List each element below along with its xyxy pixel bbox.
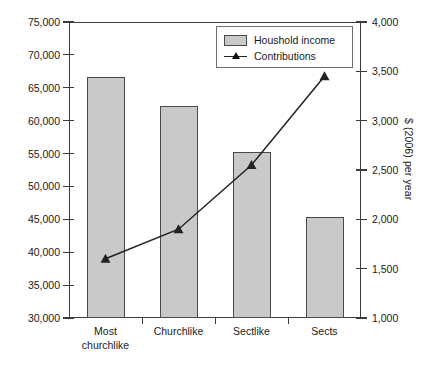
legend-label-household-income: Houshold income	[254, 34, 335, 46]
y-axis-right-tick-label: 3,000	[372, 115, 424, 127]
y-axis-left-tick-label: 30,000	[8, 312, 60, 324]
legend-item-contributions: Contributions	[224, 48, 346, 64]
y-axis-left-tick-mark	[63, 285, 74, 286]
y-axis-left-tick-mark	[63, 120, 74, 121]
line-triangle-swatch-icon	[224, 51, 247, 62]
chart-figure: $ (2006) per year $ (2006) per year 30,0…	[0, 0, 430, 370]
y-axis-right-tick-mark	[356, 71, 367, 72]
bar-household-income	[233, 152, 271, 318]
y-axis-left-tick-label: 65,000	[8, 82, 60, 94]
y-axis-left-tick-label: 60,000	[8, 115, 60, 127]
y-axis-left-tick-mark	[63, 252, 74, 253]
y-axis-left-tick-mark	[63, 21, 74, 22]
bar-household-income	[306, 217, 344, 318]
y-axis-right-tick-label: 1,000	[372, 312, 424, 324]
y-axis-right-tick-mark	[356, 219, 367, 220]
legend-item-household-income: Houshold income	[224, 32, 346, 48]
y-axis-left-tick-mark	[63, 54, 74, 55]
y-axis-left-tick-mark	[63, 87, 74, 88]
y-axis-right-ticks: 1,0001,5002,0002,5003,0003,5004,000	[372, 0, 424, 370]
y-axis-left-tick-label: 70,000	[8, 49, 60, 61]
x-axis-tick-mark	[215, 318, 216, 324]
x-axis-category-label-line: Sects	[280, 325, 370, 339]
y-axis-left-tick-mark	[63, 186, 74, 187]
y-axis-left-tick-label: 45,000	[8, 213, 60, 225]
y-axis-left-tick-label: 35,000	[8, 279, 60, 291]
y-axis-left-tick-mark	[63, 153, 74, 154]
y-axis-right-tick-mark	[356, 169, 367, 170]
bar-household-income	[87, 77, 125, 318]
y-axis-left-tick-label: 40,000	[8, 246, 60, 258]
y-axis-right-tick-label: 2,000	[372, 213, 424, 225]
bar-swatch-icon	[224, 35, 247, 46]
x-axis-category-label-line: churchlike	[61, 339, 151, 353]
y-axis-right-tick-label: 3,500	[372, 65, 424, 77]
y-axis-left-tick-mark	[63, 219, 74, 220]
x-axis-tick-mark	[288, 318, 289, 324]
y-axis-left-tick-mark	[63, 317, 74, 318]
y-axis-right-tick-label: 2,500	[372, 164, 424, 176]
bar-household-income	[160, 106, 198, 318]
x-axis-category-label: Sects	[280, 325, 370, 339]
x-axis-tick-mark	[142, 318, 143, 324]
y-axis-right-tick-mark	[356, 317, 367, 318]
y-axis-right-tick-label: 1,500	[372, 263, 424, 275]
legend-label-contributions: Contributions	[254, 50, 316, 62]
y-axis-right-tick-label: 4,000	[372, 16, 424, 28]
y-axis-right-tick-mark	[356, 21, 367, 22]
y-axis-right-tick-mark	[356, 268, 367, 269]
y-axis-right-tick-mark	[356, 120, 367, 121]
chart-legend: Houshold income Contributions	[216, 26, 353, 68]
y-axis-left-tick-label: 50,000	[8, 180, 60, 192]
y-axis-left-tick-label: 75,000	[8, 16, 60, 28]
y-axis-left-tick-label: 55,000	[8, 148, 60, 160]
y-axis-left-ticks: 30,00035,00040,00045,00050,00055,00060,0…	[8, 0, 60, 370]
